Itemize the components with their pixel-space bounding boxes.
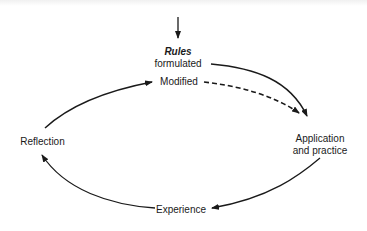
modified-label: Modified [154,76,204,87]
rules-subtitle: formulated [148,58,208,69]
reflection-to-modified-arrow [45,82,152,128]
application-to-experience-arrow [212,158,320,208]
reflection-label: Reflection [15,136,70,147]
cycle-diagram [0,0,367,231]
experience-to-reflection-arrow [42,155,155,208]
modified-to-application-dashed-arrow [204,82,299,113]
rules-title: Rules [163,46,193,57]
application-label-line1: Application [290,133,350,144]
experience-label: Experience [152,204,210,215]
application-label-line2: and practice [290,145,350,156]
